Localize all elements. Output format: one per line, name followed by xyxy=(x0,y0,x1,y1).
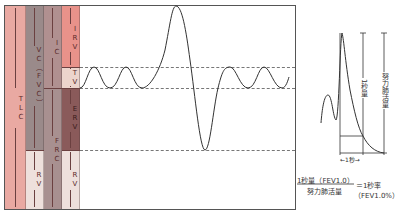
formula-numerator: 1秒量（FEV1.0） xyxy=(297,175,354,185)
spirogram-waveform xyxy=(80,6,289,150)
fvc-label: 努力肺活量 xyxy=(380,72,390,109)
one-second-label: ←1秒→ xyxy=(340,155,360,164)
fev-curve xyxy=(321,33,384,153)
formula-equals: ＝1秒率 xyxy=(356,180,381,190)
formula-denominator: 努力肺活量 xyxy=(307,186,342,196)
formula-result: （FEV1.0%） xyxy=(354,190,395,200)
fev1-label: 1秒量 xyxy=(359,78,369,98)
